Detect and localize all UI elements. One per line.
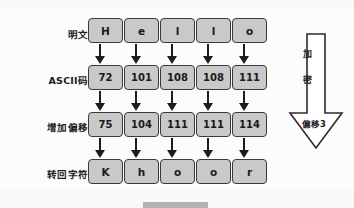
down-arrow-icon: [160, 138, 195, 160]
cell-ascii-1: 101: [124, 65, 159, 90]
down-arrow-icon: [88, 138, 123, 160]
row-boxes-shifted: 75 104 111 111 114: [88, 112, 267, 137]
cell-shifted-1: 104: [124, 112, 159, 137]
cell-ascii-3: 108: [196, 65, 231, 90]
cell-ascii-2: 108: [160, 65, 195, 90]
down-arrow-icon: [232, 138, 267, 160]
cell-plaintext-4: o: [232, 18, 267, 43]
cell-plaintext-2: l: [160, 18, 195, 43]
cell-shifted-0: 75: [88, 112, 123, 137]
row-label-shifted: 增加偏移:: [14, 120, 92, 134]
cell-ciphertext-1: h: [124, 159, 159, 184]
encryption-label-char-1: 加: [299, 50, 315, 59]
shift-amount-label: 偏移3: [292, 117, 336, 129]
down-arrow-icon: [196, 44, 231, 66]
paper-texture-band-top: [0, 0, 354, 9]
cell-ascii-0: 72: [88, 65, 123, 90]
diagram-canvas: 明文: H e l l o ASCII码: 72 101 108 108 111…: [0, 0, 354, 208]
cell-plaintext-3: l: [196, 18, 231, 43]
row-boxes-plaintext: H e l l o: [88, 18, 267, 43]
cell-ciphertext-2: o: [160, 159, 195, 184]
row-label-ciphertext: 转回字符:: [14, 167, 92, 181]
encryption-direction-arrow-icon: [288, 33, 344, 150]
cell-ciphertext-4: r: [232, 159, 267, 184]
down-arrow-icon: [160, 44, 195, 66]
row-boxes-ascii: 72 101 108 108 111: [88, 65, 267, 90]
arrow-group-ascii-to-shifted: [88, 91, 267, 113]
cell-ascii-4: 111: [232, 65, 267, 90]
down-arrow-icon: [88, 44, 123, 66]
down-arrow-icon: [196, 138, 231, 160]
arrow-group-plaintext-to-ascii: [88, 44, 267, 66]
encryption-label-char-2: 密: [299, 76, 315, 85]
row-boxes-ciphertext: K h o o r: [88, 159, 267, 184]
down-arrow-icon: [196, 91, 231, 113]
down-arrow-icon: [232, 44, 267, 66]
scan-artifact: [143, 202, 208, 208]
down-arrow-icon: [124, 91, 159, 113]
down-arrow-icon: [88, 91, 123, 113]
cell-shifted-4: 114: [232, 112, 267, 137]
down-arrow-icon: [124, 138, 159, 160]
arrow-group-shifted-to-ciphertext: [88, 138, 267, 160]
cell-plaintext-0: H: [88, 18, 123, 43]
row-label-ascii: ASCII码:: [14, 73, 92, 87]
down-arrow-icon: [124, 44, 159, 66]
cell-ciphertext-3: o: [196, 159, 231, 184]
cell-plaintext-1: e: [124, 18, 159, 43]
row-label-plaintext: 明文:: [14, 27, 92, 41]
cell-shifted-3: 111: [196, 112, 231, 137]
cell-shifted-2: 111: [160, 112, 195, 137]
cell-ciphertext-0: K: [88, 159, 123, 184]
down-arrow-icon: [160, 91, 195, 113]
down-arrow-icon: [232, 91, 267, 113]
